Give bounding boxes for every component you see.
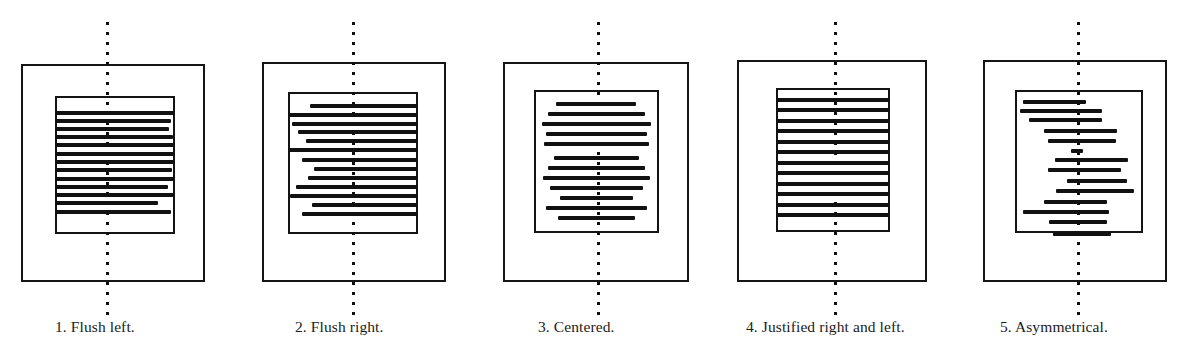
text-line — [776, 108, 890, 112]
text-line — [1053, 232, 1111, 236]
text-line — [776, 171, 890, 175]
text-line — [298, 130, 418, 134]
text-line — [55, 111, 175, 115]
text-line — [776, 140, 890, 144]
text-line — [55, 168, 172, 172]
text-line — [776, 129, 890, 133]
text-line — [310, 104, 418, 108]
text-line — [1029, 118, 1102, 122]
text-line — [1067, 179, 1127, 183]
center-axis-dotted-line — [106, 22, 109, 322]
text-line — [776, 150, 890, 154]
center-axis-dotted-line — [352, 22, 355, 322]
text-line — [1020, 109, 1102, 113]
text-line — [308, 176, 418, 180]
text-line — [314, 167, 418, 171]
text-line — [55, 185, 168, 189]
text-line — [55, 177, 175, 181]
center-axis-dotted-line — [597, 22, 600, 322]
text-line — [312, 203, 418, 207]
text-line — [1056, 189, 1134, 193]
text-line — [302, 212, 418, 216]
text-line — [776, 213, 890, 217]
center-axis-dotted-line — [1077, 22, 1080, 322]
alignment-figure-row: 1. Flush left.2. Flush right.3. Centered… — [0, 0, 1181, 364]
text-line — [776, 203, 890, 207]
text-line — [55, 143, 175, 147]
text-line — [55, 127, 169, 131]
text-line — [1048, 139, 1116, 143]
text-line — [1048, 168, 1121, 172]
text-line — [306, 139, 418, 143]
text-line — [1044, 129, 1117, 133]
text-line — [296, 185, 418, 189]
text-line — [55, 135, 173, 139]
text-line — [776, 119, 890, 123]
text-line — [776, 192, 890, 196]
text-line-stack — [776, 88, 890, 232]
text-line-stack — [55, 96, 175, 234]
text-line — [55, 210, 171, 214]
center-axis-dotted-line — [834, 22, 837, 322]
text-line — [302, 158, 418, 162]
text-line — [55, 152, 174, 156]
text-line — [55, 119, 171, 123]
text-line — [556, 102, 636, 106]
text-line — [776, 182, 890, 186]
text-line — [1044, 200, 1107, 204]
text-line — [55, 193, 174, 197]
text-line — [1023, 210, 1109, 214]
text-line — [292, 122, 418, 126]
text-line — [776, 98, 890, 102]
text-line — [776, 161, 890, 165]
text-line — [1055, 158, 1128, 162]
text-line — [55, 160, 175, 164]
panel-caption: 5. Asymmetrical. — [1000, 318, 1108, 336]
